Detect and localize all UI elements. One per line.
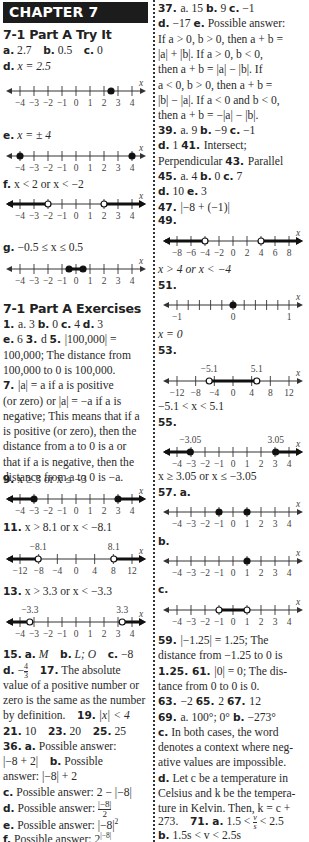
svg-text:−1: −1: [57, 98, 67, 108]
exercise-9: 9. x ≥ 3 or x ≤ −3: [3, 473, 87, 487]
text-line: 39. a. 9 b. −9 c. −1: [158, 124, 255, 138]
text-line: distance from −1.25 to 0 is: [158, 649, 282, 663]
svg-text:−1: −1: [57, 276, 67, 286]
text-line: Celsius and k be the tempera-: [158, 787, 295, 801]
svg-text:x: x: [138, 609, 144, 619]
number-line-g: x−4−3−2−101234: [6, 259, 146, 289]
svg-text:−2: −2: [43, 629, 53, 639]
svg-text:−3.3: −3.3: [21, 605, 38, 615]
svg-text:−2: −2: [200, 519, 210, 529]
section-title-exercises: 7-1 Part A Exercises: [3, 302, 141, 316]
svg-text:−4: −4: [172, 617, 182, 627]
text-line: then a + b = |a| − |b|. If: [158, 63, 263, 77]
exercise-55: 55.: [158, 416, 177, 430]
svg-text:−2: −2: [43, 276, 53, 286]
text-line: a < 0, b > 0, then a + b =: [158, 79, 272, 93]
svg-text:3.3: 3.3: [116, 605, 128, 615]
svg-text:8.1: 8.1: [108, 542, 120, 552]
chapter-header: CHAPTER 7: [3, 2, 148, 23]
exercise-53: 53.: [158, 344, 177, 358]
text-line: distance from a to 0 is a or: [3, 440, 126, 454]
svg-text:1: 1: [245, 459, 250, 469]
svg-text:0: 0: [74, 163, 79, 173]
exercise-36f: f. Possible answer: 2|−8|: [3, 829, 111, 842]
number-line-f: x−4−3−2−101234: [6, 194, 146, 224]
svg-text:−2: −2: [214, 248, 224, 258]
exercise-15d-17: d. −43 17. The absolute: [3, 663, 121, 680]
try-it-g: g. −0.5 ≤ x ≤ 0.5: [3, 241, 83, 255]
svg-text:5.1: 5.1: [251, 364, 263, 374]
svg-text:2: 2: [102, 629, 107, 639]
svg-text:0: 0: [231, 248, 236, 258]
svg-text:2: 2: [259, 459, 264, 469]
right-column: 37. a. 15 b. 9 c. −1d. −17 e. Possible a…: [157, 0, 309, 842]
svg-text:8: 8: [287, 248, 292, 258]
svg-text:0: 0: [231, 312, 236, 322]
svg-text:−1: −1: [57, 163, 67, 173]
text-line: c. In both cases, the word: [158, 726, 278, 740]
svg-text:3: 3: [116, 629, 121, 639]
svg-text:−3: −3: [29, 276, 39, 286]
svg-text:1: 1: [88, 506, 93, 516]
svg-text:1: 1: [88, 211, 93, 221]
text-line: Perpendicular 43. Parallel: [158, 155, 283, 169]
svg-text:0: 0: [74, 629, 79, 639]
svg-text:−12: −12: [170, 388, 185, 398]
svg-text:12: 12: [284, 388, 294, 398]
text-line: 69. a. 100°; 0° b. −273°: [158, 711, 276, 725]
svg-text:3: 3: [116, 211, 121, 221]
text-line: 37. a. 15 b. 9 c. −1: [158, 2, 255, 16]
svg-text:1: 1: [245, 617, 250, 627]
svg-text:2: 2: [245, 248, 250, 258]
svg-text:−3: −3: [29, 163, 39, 173]
exercise-57c: c.: [158, 583, 168, 597]
svg-text:−12: −12: [13, 566, 28, 576]
exercise-51-answer: x = 0: [158, 328, 183, 342]
svg-text:4: 4: [287, 617, 292, 627]
svg-text:0: 0: [74, 276, 79, 286]
svg-text:−2: −2: [43, 163, 53, 173]
left-column: CHAPTER 7 7-1 Part A Try It a. 2.7 b. 0.…: [0, 0, 152, 842]
exercise-17-19: by definition. 19. |x| < 4: [3, 709, 130, 723]
text-line: 59. |−1.25| = 1.25; The: [158, 634, 269, 648]
text-line: (or zero) or |a| = −a if a is: [3, 395, 121, 409]
exercise-36a-b: |−8 + 2| b. Possible: [3, 755, 103, 769]
svg-text:1: 1: [287, 312, 292, 322]
svg-text:−8: −8: [34, 566, 44, 576]
svg-text:3: 3: [116, 276, 121, 286]
text-line: 63. −2 65. 2 67. 12: [158, 695, 261, 709]
svg-text:−6: −6: [186, 248, 196, 258]
text-line: d. −17 e. Possible answer:: [158, 17, 285, 31]
svg-text:x: x: [138, 143, 144, 153]
svg-text:−4: −4: [15, 276, 25, 286]
try-it-d: d. x = 2.5: [3, 60, 51, 74]
exercise-49: 49.: [158, 214, 177, 228]
svg-text:3: 3: [273, 519, 278, 529]
svg-text:0: 0: [74, 98, 79, 108]
svg-text:−3: −3: [29, 506, 39, 516]
text-line: that if a is negative, then the: [3, 456, 134, 470]
svg-text:0: 0: [74, 211, 79, 221]
number-line-e: x−4−3−2−101234: [6, 146, 146, 176]
svg-text:2: 2: [259, 568, 264, 578]
svg-text:2: 2: [102, 276, 107, 286]
svg-text:−4: −4: [15, 163, 25, 173]
svg-text:−2: −2: [200, 568, 210, 578]
svg-text:−3: −3: [29, 211, 39, 221]
exercise-36b-answer: answer: |−8| + 2: [3, 770, 77, 784]
svg-text:4: 4: [287, 568, 292, 578]
exercise-57a: 57. a.: [158, 486, 191, 500]
svg-text:x: x: [138, 546, 144, 556]
svg-text:3: 3: [273, 617, 278, 627]
svg-text:−8: −8: [172, 248, 182, 258]
exercise-49-answer: x > 4 or x < −4: [158, 263, 231, 277]
svg-text:−2: −2: [43, 98, 53, 108]
svg-text:6: 6: [273, 248, 278, 258]
svg-text:x: x: [138, 486, 144, 496]
text-line: 1. a. 3 b. 0 c. 4 d. 3: [3, 318, 103, 332]
svg-text:−4: −4: [15, 506, 25, 516]
svg-text:−1: −1: [57, 629, 67, 639]
text-line: 45. a. 4 b. 0 c. 7: [158, 170, 242, 184]
svg-text:−3: −3: [186, 568, 196, 578]
svg-text:0: 0: [74, 566, 79, 576]
